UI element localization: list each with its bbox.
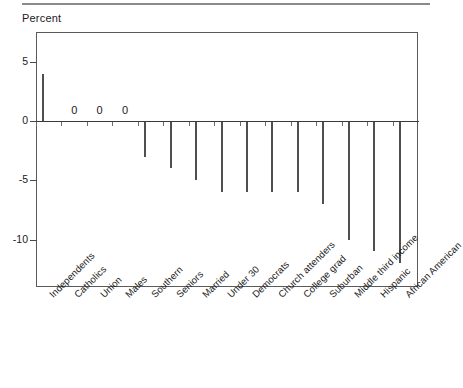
y-tick-mark (30, 240, 37, 241)
x-tick-mark (87, 122, 88, 126)
bar (348, 121, 350, 240)
y-tick-label: -5 (0, 173, 28, 185)
x-tick-mark (61, 122, 62, 126)
x-tick-mark (36, 122, 37, 126)
bar-value-label: 0 (60, 104, 88, 116)
bar (373, 121, 375, 251)
y-tick-mark (30, 62, 37, 63)
top-divider-rule (22, 3, 430, 5)
bar (144, 121, 146, 157)
x-tick-mark (265, 122, 266, 126)
bar (195, 121, 197, 180)
x-tick-mark (214, 122, 215, 126)
bar (221, 121, 223, 192)
x-tick-mark (367, 122, 368, 126)
x-tick-mark (291, 122, 292, 126)
y-tick-label: 5 (0, 55, 28, 67)
plot-area-frame (36, 32, 418, 287)
bar (246, 121, 248, 192)
y-axis-title: Percent (22, 12, 61, 24)
x-tick-mark (112, 122, 113, 126)
x-tick-mark (189, 122, 190, 126)
bar-value-label: 0 (111, 104, 139, 116)
bar-value-label: 0 (86, 104, 114, 116)
y-tick-label: 0 (0, 114, 28, 126)
x-tick-mark (240, 122, 241, 126)
bar (170, 121, 172, 168)
x-tick-mark (163, 122, 164, 126)
y-tick-mark (30, 180, 37, 181)
x-tick-mark (393, 122, 394, 126)
x-tick-mark (316, 122, 317, 126)
bar (297, 121, 299, 192)
bar (271, 121, 273, 192)
bar (322, 121, 324, 204)
bar (42, 74, 44, 121)
x-tick-mark (138, 122, 139, 126)
y-tick-label: -10 (0, 233, 28, 245)
x-tick-mark (342, 122, 343, 126)
zero-baseline (36, 121, 419, 122)
